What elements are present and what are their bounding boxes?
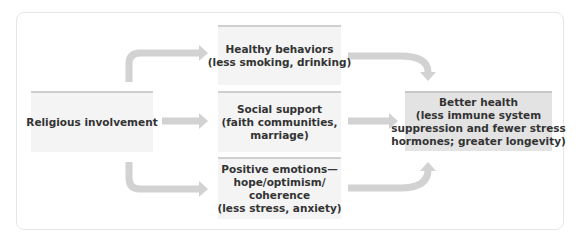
social-support-detail-1: (faith communities, [221, 116, 337, 129]
healthy-behaviors-detail: (less smoking, drinking) [208, 56, 351, 69]
source-box-religious-involvement: Religious involvement [31, 91, 153, 152]
positive-emotions-detail-3: (less stress, anxiety) [217, 202, 341, 215]
mediator-box-social-support: Social support (faith communities, marri… [218, 91, 341, 152]
outcome-detail-1: (less immune system [391, 109, 566, 122]
social-support-detail-2: marriage) [221, 129, 337, 142]
arrowhead-outcome-top [420, 72, 436, 81]
source-label: Religious involvement [26, 116, 157, 129]
positive-emotions-detail-1: hope/optimism/ [217, 176, 341, 189]
outcome-detail-2: suppression and fewer stress [391, 122, 566, 135]
arrow-source-to-positive [129, 162, 200, 189]
arrow-healthy-to-outcome [348, 56, 428, 72]
outcome-box-better-health: Better health (less immune system suppre… [405, 91, 552, 151]
social-support-title: Social support [221, 103, 337, 116]
arrow-source-to-healthy [129, 53, 200, 82]
arrowhead-outcome-bottom [420, 162, 436, 171]
arrow-positive-to-outcome [348, 170, 428, 188]
arrowhead-healthy [199, 45, 208, 61]
positive-emotions-detail-2: coherence [217, 189, 341, 202]
outcome-detail-3: hormones; greater longevity) [391, 135, 566, 148]
arrowhead-positive [199, 181, 208, 197]
positive-emotions-title: Positive emotions— [217, 163, 341, 176]
outcome-title: Better health [391, 96, 566, 109]
mediator-box-positive-emotions: Positive emotions— hope/optimism/ cohere… [218, 157, 341, 219]
mediator-box-healthy-behaviors: Healthy behaviors (less smoking, drinkin… [218, 25, 341, 85]
arrowhead-social [199, 113, 208, 129]
healthy-behaviors-title: Healthy behaviors [208, 43, 351, 56]
